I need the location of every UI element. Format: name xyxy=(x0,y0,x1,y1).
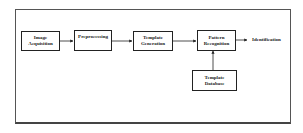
node-label-line1: Template xyxy=(205,75,225,81)
node-image-acquisition: Image Acquisition xyxy=(21,31,60,51)
output-identification-label: Identification xyxy=(252,37,281,42)
node-label-line2: Generation xyxy=(141,41,165,47)
node-label-line2: Database xyxy=(205,81,225,87)
node-preprocessing: Preprocessing xyxy=(74,30,112,51)
node-label-line2: Acquisition xyxy=(28,41,52,47)
node-label-line2: Recognition xyxy=(204,41,230,47)
node-label-line1: Preprocessing xyxy=(78,34,108,40)
connector-arrows xyxy=(0,0,303,133)
node-template-database: Template Database xyxy=(192,70,237,91)
node-pattern-recognition: Pattern Recognition xyxy=(197,30,236,51)
node-template-generation: Template Generation xyxy=(133,31,173,51)
